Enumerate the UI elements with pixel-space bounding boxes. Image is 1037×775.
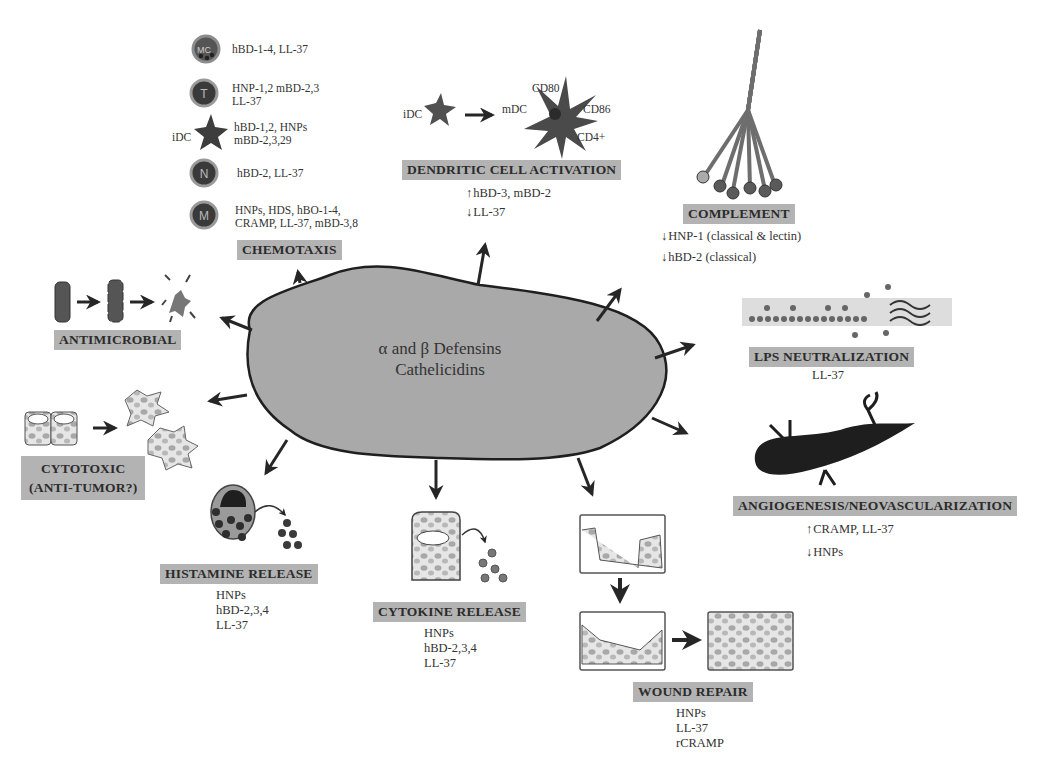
center-line-1: α and β Defensins <box>320 338 560 359</box>
complement-down-1: HNP-1 (classical & lectin) <box>661 229 801 244</box>
antimicrobial-label: ANTIMICROBIAL <box>54 330 181 350</box>
complement-heads <box>697 171 782 199</box>
complement-label: COMPLEMENT <box>683 204 795 224</box>
svg-text:M: M <box>199 209 209 223</box>
svg-text:MC: MC <box>197 45 211 55</box>
complement-down-2: hBD-2 (classical) <box>661 250 756 265</box>
marker-cd86: CD86 <box>583 103 610 116</box>
histamine-agents: HNPs hBD-2,3,4 LL-37 <box>216 588 269 633</box>
angiogenesis-up: CRAMP, LL-37 <box>806 522 894 537</box>
svg-text:T: T <box>200 87 208 101</box>
chemotaxis-idc-label: iDC <box>172 131 191 144</box>
dendritic-down: LL-37 <box>466 205 505 220</box>
dendritic-label: DENDRITIC CELL ACTIVATION <box>402 160 621 180</box>
marker-cd80: CD80 <box>532 82 559 95</box>
lps-molecule <box>742 284 952 338</box>
cytokine-label: CYTOKINE RELEASE <box>373 602 526 622</box>
cytotoxic-label: CYTOTOXIC (ANTI-TUMOR?) <box>21 456 145 500</box>
dendritic-mdc-label: mDC <box>502 103 527 116</box>
svg-text:N: N <box>200 167 209 181</box>
chemotaxis-m-text: HNPs, HDS, hBO-1-4, CRAMP, LL-37, mBD-3,… <box>235 204 358 230</box>
chemotaxis-mc-text: hBD-1-4, LL-37 <box>232 43 308 56</box>
cytokine-agents: HNPs hBD-2,3,4 LL-37 <box>424 626 477 671</box>
chemotaxis-label: CHEMOTAXIS <box>237 240 342 260</box>
antimicrobial-bacteria <box>55 275 195 322</box>
angiogenesis-label: ANGIOGENESIS/NEOVASCULARIZATION <box>733 496 1017 516</box>
diagram-artwork: MC T N M <box>0 0 1037 775</box>
chemotaxis-idc-text: hBD-1,2, HNPs mBD-2,3,29 <box>234 121 307 147</box>
dendritic-idc-label: iDC <box>403 108 422 121</box>
complement-fibers <box>705 30 775 190</box>
lps-label: LPS NEUTRALIZATION <box>749 347 914 367</box>
chemotaxis-n-text: hBD-2, LL-37 <box>237 167 303 180</box>
center-line-2: Cathelicidins <box>320 359 560 380</box>
dendritic-cells <box>424 76 598 159</box>
central-title: α and β Defensins Cathelicidins <box>320 338 560 380</box>
histamine-label: HISTAMINE RELEASE <box>160 564 318 584</box>
dendritic-up: hBD-3, mBD-2 <box>466 186 551 201</box>
wound-agents: HNPs LL-37 rCRAMP <box>676 706 724 751</box>
marker-cd4: CD4+ <box>577 131 605 144</box>
wound-label: WOUND REPAIR <box>633 682 753 702</box>
histamine-cell <box>211 485 302 549</box>
cytokine-cell <box>412 512 507 582</box>
angiogenesis-down: HNPs <box>806 545 843 560</box>
chemotaxis-cells: MC T N M <box>191 36 228 228</box>
chemotaxis-t-text: HNP-1,2 mBD-2,3 LL-37 <box>232 82 319 108</box>
lps-agent: LL-37 <box>812 368 844 383</box>
wound-repair-panels <box>580 515 793 670</box>
blood-vessel <box>755 392 915 485</box>
